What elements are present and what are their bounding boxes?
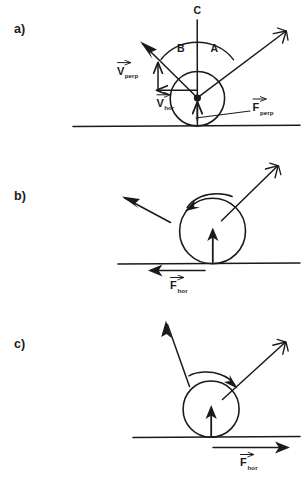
v-perp-symbol: V [117, 65, 125, 77]
contact-point-dot-a [194, 94, 201, 101]
friction-force-arrow-c [213, 441, 290, 453]
panel-c-label: c) [14, 337, 25, 351]
panel-b: b) [14, 163, 300, 294]
f-hor-symbol-b: F [170, 279, 177, 291]
normal-force-arrow-b [207, 228, 218, 263]
f-perp-symbol: F [253, 101, 260, 113]
friction-force-arrow-b [148, 265, 205, 277]
physics-diagram: a) C B A [0, 0, 306, 483]
f-perp-subscript: perp [260, 109, 274, 116]
normal-force-arrow-c [206, 405, 217, 436]
spin-arc-arrow-b [185, 194, 232, 211]
panel-a-label: a) [14, 22, 25, 36]
f-hor-label-b: F hor [170, 278, 188, 295]
vertical-line-label-c: C [194, 4, 202, 16]
incoming-velocity-arrow-c [223, 339, 289, 399]
v-hor-label-a: V hor [157, 95, 175, 112]
incoming-velocity-arrow-b [222, 163, 281, 221]
panel-b-label: b) [14, 189, 26, 203]
angle-label-b: B [177, 42, 185, 54]
v-perp-subscript: perp [125, 72, 139, 79]
outgoing-velocity-arrow-a [140, 41, 197, 97]
angle-label-a: A [211, 42, 219, 54]
outgoing-velocity-arrow-b [122, 197, 171, 223]
panel-c: c) [14, 321, 300, 472]
f-hor-subscript-c: hor [248, 464, 259, 471]
f-hor-subscript-b: hor [178, 287, 189, 294]
v-hor-symbol: V [157, 97, 165, 109]
outgoing-velocity-arrow-c [161, 321, 189, 387]
v-perp-label-a: V perp [117, 63, 138, 80]
f-perp-label-a: F perp [253, 99, 274, 116]
incoming-velocity-arrow-a [198, 28, 288, 98]
ground-line-a [73, 125, 300, 126]
f-perp-leader-line-a [196, 111, 250, 118]
v-hor-subscript: hor [164, 104, 175, 111]
f-hor-label-c: F hor [240, 455, 258, 472]
f-hor-symbol-c: F [240, 456, 247, 468]
panel-a: a) C B A [14, 4, 300, 127]
